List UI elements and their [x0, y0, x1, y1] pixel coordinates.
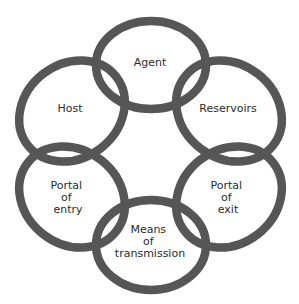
svg-text:Portal of exit: Portal of exit: [210, 179, 245, 216]
label-agent: Agent: [134, 56, 167, 69]
node-reservoirs: Reservoirs: [156, 39, 299, 182]
label-host: Host: [57, 102, 83, 115]
node-agent: Agent: [96, 21, 206, 109]
label-portal-of-exit-3: exit: [218, 203, 239, 216]
label-means-3: transmission: [115, 247, 185, 260]
svg-text:Portal of entry: Portal of entry: [50, 179, 85, 216]
svg-text:Reservoirs: Reservoirs: [199, 102, 257, 115]
node-means-of-transmission: Means of transmission: [96, 200, 206, 290]
svg-text:Means of transmiss: Means of transmission: [115, 223, 185, 260]
svg-text:Agent: Agent: [134, 56, 167, 69]
label-reservoirs: Reservoirs: [199, 102, 257, 115]
svg-text:Host: Host: [57, 102, 83, 115]
label-portal-of-entry-3: entry: [53, 203, 83, 216]
node-host: Host: [0, 39, 145, 182]
chain-of-infection-diagram: Host Portal of entry Agent Reservoirs Po…: [0, 0, 299, 304]
